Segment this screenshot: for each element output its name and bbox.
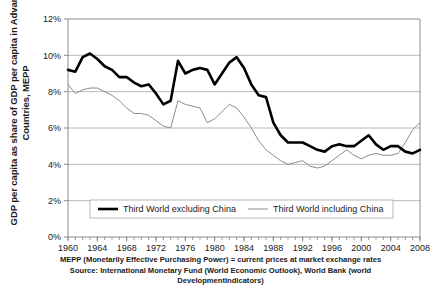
x-axis-ticks — [68, 237, 420, 242]
plot-container: 12%10%8%6%4%2%0% 19601964196819721976198… — [0, 0, 437, 298]
chart-svg: 12%10%8%6%4%2%0% 19601964196819721976198… — [0, 0, 437, 298]
y-axis-tick-label: 8% — [48, 87, 61, 97]
footer-line-1: MEPP (Monetarily Effective Purchasing Po… — [18, 255, 423, 266]
x-axis-tick-labels: 1960196419681972197619801984198819921996… — [58, 243, 430, 253]
x-axis-tick-label: 2000 — [351, 243, 371, 253]
chart-legend: Third World excluding ChinaThird World i… — [90, 200, 393, 218]
x-axis-tick-label: 1960 — [58, 243, 78, 253]
y-axis-tick-labels: 12%10%8%6%4%2%0% — [43, 14, 61, 242]
series-line — [68, 54, 420, 154]
x-axis-tick-label: 2008 — [410, 243, 430, 253]
x-axis-tick-label: 1964 — [87, 243, 107, 253]
y-axis-tick-label: 0% — [48, 232, 61, 242]
y-axis-ticks — [64, 19, 68, 237]
x-axis-tick-label: 1992 — [293, 243, 313, 253]
x-axis-tick-label: 1996 — [322, 243, 342, 253]
y-axis-tick-label: 4% — [48, 160, 61, 170]
footer-note: MEPP (Monetarily Effective Purchasing Po… — [18, 255, 423, 287]
x-axis-tick-label: 1972 — [146, 243, 166, 253]
footer-line-2: Source: International Monetary Fund (Wor… — [18, 266, 423, 277]
series-line — [68, 84, 420, 168]
y-axis-tick-label: 6% — [48, 123, 61, 133]
y-axis-tick-label: 12% — [43, 14, 61, 24]
gridlines — [68, 19, 420, 201]
chart-figure: GDP per capita as share of GDP per capit… — [0, 0, 437, 298]
x-axis-tick-label: 2004 — [381, 243, 401, 253]
x-axis-tick-label: 1976 — [175, 243, 195, 253]
footer-line-3: DevelopmentIndicators) — [18, 276, 423, 287]
x-axis-tick-label: 1988 — [263, 243, 283, 253]
y-axis-tick-label: 2% — [48, 196, 61, 206]
data-series-group — [68, 54, 420, 168]
x-axis-tick-label: 1980 — [205, 243, 225, 253]
y-axis-tick-label: 10% — [43, 51, 61, 61]
legend-item-label: Third World excluding China — [123, 204, 236, 214]
x-axis-tick-label: 1984 — [234, 243, 254, 253]
legend-item-label: Third World including China — [273, 204, 383, 214]
x-axis-tick-label: 1968 — [117, 243, 137, 253]
